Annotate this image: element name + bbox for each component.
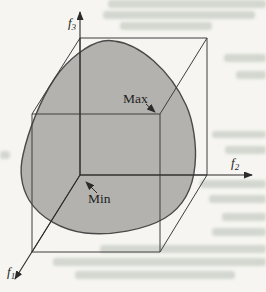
f3-axis-label: f3 <box>68 15 77 32</box>
objective-space-diagram: f3 f2 f1 Max Min <box>0 0 266 292</box>
f2-axis-label: f2 <box>231 155 240 172</box>
f1-axis-label: f1 <box>7 264 15 281</box>
scanned-page-figure: f3 f2 f1 Max Min <box>0 0 266 292</box>
max-label: Max <box>123 91 148 106</box>
min-label: Min <box>88 191 111 206</box>
